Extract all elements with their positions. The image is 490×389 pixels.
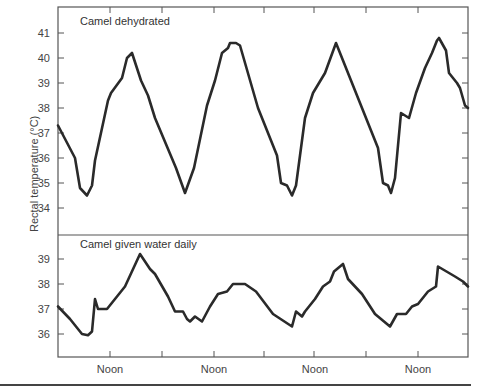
- y-tick-label: 37: [38, 303, 50, 315]
- x-tick-label-noon: Noon: [302, 363, 328, 375]
- chart-frame: [58, 7, 468, 357]
- y-tick-label: 40: [38, 52, 50, 64]
- y-tick-label: 36: [38, 328, 50, 340]
- y-axis-title: Rectal temperature (°C): [28, 116, 40, 232]
- plot-border: [58, 7, 468, 357]
- x-tick-label-noon: Noon: [97, 363, 123, 375]
- temperature-chart: 343536373839404136373839NoonNoonNoonNoon…: [0, 0, 490, 389]
- y-tick-label: 39: [38, 253, 50, 265]
- axis-tick-labels: 343536373839404136373839NoonNoonNoonNoon: [38, 27, 431, 375]
- x-tick-label-noon: Noon: [201, 363, 227, 375]
- y-tick-label: 41: [38, 27, 50, 39]
- water-daily-temperature-line: [58, 254, 468, 335]
- y-tick-label: 39: [38, 77, 50, 89]
- axis-ticks: [58, 7, 468, 357]
- panel-title-dehydrated: Camel dehydrated: [80, 15, 170, 27]
- dehydrated-temperature-line: [58, 38, 468, 196]
- panel-title-water-daily: Camel given water daily: [80, 238, 197, 250]
- y-tick-label: 38: [38, 278, 50, 290]
- y-tick-label: 38: [38, 102, 50, 114]
- x-tick-label-noon: Noon: [405, 363, 431, 375]
